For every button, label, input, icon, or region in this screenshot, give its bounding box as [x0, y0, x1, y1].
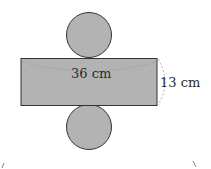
- width-label: 36 cm: [71, 66, 111, 81]
- height-label: 13 cm: [160, 75, 200, 90]
- top-circle: [67, 13, 112, 58]
- bottom-circle: [67, 105, 112, 150]
- corner-mark-left: [2, 163, 4, 168]
- corner-mark-right: [193, 161, 196, 167]
- cylinder-net-diagram: 36 cm 13 cm: [0, 0, 211, 169]
